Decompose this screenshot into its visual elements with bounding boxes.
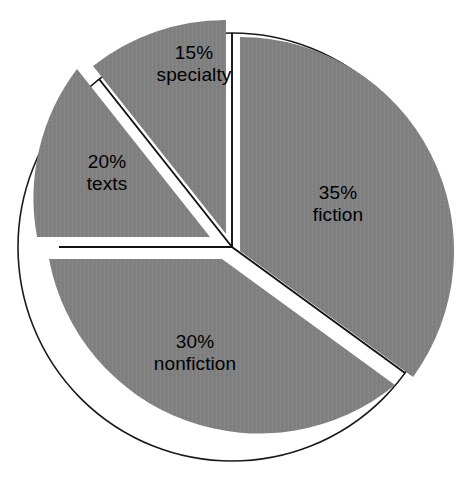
slice-percent-texts: 20%: [52, 151, 162, 173]
slice-percent-fiction: 35%: [286, 182, 390, 204]
slice-label-texts: 20% texts: [52, 151, 162, 196]
slice-name-specialty: specialty: [133, 64, 255, 86]
slice-label-nonfiction: 30% nonfiction: [110, 331, 280, 376]
slice-label-specialty: 15% specialty: [133, 42, 255, 87]
slice-name-fiction: fiction: [286, 204, 390, 226]
pie-chart: 35% fiction 30% nonfiction 20% texts 15%…: [0, 0, 472, 487]
slice-label-fiction: 35% fiction: [286, 182, 390, 227]
slice-percent-specialty: 15%: [133, 42, 255, 64]
slice-name-nonfiction: nonfiction: [110, 353, 280, 375]
slice-name-texts: texts: [52, 173, 162, 195]
slice-percent-nonfiction: 30%: [110, 331, 280, 353]
